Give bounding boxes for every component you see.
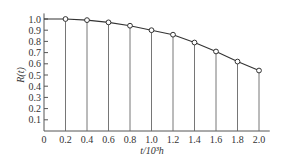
x-tick-label: 1.0 (145, 134, 158, 145)
y-tick-label: 0.4 (29, 81, 42, 92)
x-tick-label: 0.2 (59, 134, 72, 145)
data-point-marker (128, 23, 133, 28)
data-point-marker (192, 40, 197, 45)
data-point-marker (149, 28, 154, 33)
data-series (44, 17, 261, 73)
data-point-marker (106, 20, 111, 25)
x-tick-label: 1.2 (167, 134, 180, 145)
data-point-marker (235, 59, 240, 64)
axes: 0.10.20.30.40.50.60.70.80.91.000.20.40.6… (29, 13, 270, 145)
y-tick-label: 1.0 (29, 14, 42, 25)
x-tick-label: 0.6 (102, 134, 115, 145)
data-point-marker (63, 17, 68, 22)
y-tick-label: 0.1 (29, 114, 42, 125)
x-tick-label: 0.8 (124, 134, 137, 145)
x-tick-label: 1.6 (210, 134, 223, 145)
x-tick-label: 2.0 (253, 134, 266, 145)
x-tick-label: 1.8 (231, 134, 244, 145)
data-point-marker (171, 32, 176, 37)
y-tick-label: 0.5 (29, 70, 42, 81)
y-tick-label: 0.2 (29, 103, 42, 114)
y-axis-title: R(t) (15, 67, 27, 84)
y-tick-label: 0.6 (29, 58, 42, 69)
y-tick-label: 0.3 (29, 92, 42, 103)
drop-lines (66, 19, 260, 131)
x-tick-label: 1.4 (188, 134, 201, 145)
y-tick-label: 0.8 (29, 36, 42, 47)
x-tick-label: 0.4 (81, 134, 94, 145)
y-tick-label: 0.7 (29, 47, 42, 58)
reliability-chart: 0.10.20.30.40.50.60.70.80.91.000.20.40.6… (0, 0, 285, 159)
data-point-marker (85, 18, 90, 23)
y-tick-label: 0.9 (29, 25, 42, 36)
x-axis-title: t/10³h (140, 145, 164, 156)
data-point-marker (257, 68, 262, 73)
x-tick-label: 0 (42, 134, 47, 145)
data-point-marker (214, 49, 219, 54)
